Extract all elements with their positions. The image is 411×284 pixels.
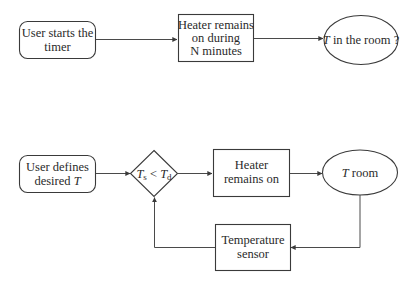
- bottom-heater-line-1: Heater: [235, 158, 269, 172]
- temperature-sensor-node: Temperature sensor: [216, 225, 291, 271]
- decision-node: Ts < Td: [131, 151, 178, 197]
- bottom-result-label: T room: [342, 166, 379, 180]
- top-heater-line-3: N minutes: [190, 44, 242, 58]
- top-heater-line-1: Heater remains: [178, 18, 254, 32]
- top-heater-line-2: on during: [192, 31, 241, 45]
- top-start-line-2: timer: [44, 40, 71, 54]
- bottom-start-node: User defines desired T: [20, 156, 96, 193]
- top-result-node: T in the room ?: [323, 16, 400, 65]
- top-heater-process-node: Heater remains on during N minutes: [178, 15, 254, 62]
- bottom-heater-process-node: Heater remains on: [214, 150, 290, 197]
- top-result-label: T in the room ?: [323, 33, 400, 47]
- flowchart-canvas: User starts the timer Heater remains on …: [0, 0, 411, 284]
- bottom-start-line-2: desired T: [34, 174, 81, 188]
- bottom-heater-line-2: remains on: [224, 172, 280, 186]
- sensor-line-2: sensor: [237, 247, 270, 261]
- arrow-room-to-sensor: [291, 195, 360, 248]
- sensor-line-1: Temperature: [222, 233, 285, 247]
- decision-label: Ts < Td: [136, 167, 172, 182]
- top-start-node: User starts the timer: [20, 22, 96, 59]
- top-start-line-1: User starts the: [22, 26, 94, 40]
- arrow-sensor-to-decision: [155, 198, 216, 248]
- bottom-start-line-1: User defines: [26, 160, 89, 174]
- bottom-result-node: T room: [323, 150, 398, 195]
